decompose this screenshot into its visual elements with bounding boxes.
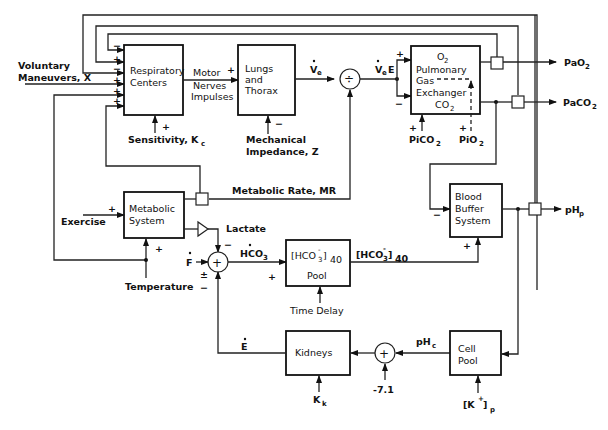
summing-junction-ph: + [351,343,395,363]
svg-text:40: 40 [330,254,342,265]
svg-text:p: p [579,210,584,218]
kk-input: K k [313,376,327,408]
lungs-thorax-block: Lungs and Thorax [238,45,295,115]
svg-text:Respiratory: Respiratory [130,65,185,76]
svg-text:e: e [382,69,387,77]
svg-text:+: + [459,122,467,133]
svg-text:Impulses: Impulses [191,91,234,102]
php-to-cellpool-wire [502,209,518,354]
svg-text:Metabolic Rate, MR: Metabolic Rate, MR [232,185,337,196]
svg-text:F: F [186,257,193,268]
svg-text:Gas: Gas [416,75,434,86]
svg-text:Cell: Cell [458,343,476,354]
svg-text:Temperature: Temperature [125,281,193,292]
svg-text:Exercise: Exercise [61,216,106,227]
svg-text:+: + [396,48,404,59]
svg-text:−: − [113,40,121,51]
svg-text:Metabolic: Metabolic [129,203,175,214]
vee-signal: V e E + − [360,48,411,109]
phc-signal: pH c [396,336,450,353]
svg-text:]: ] [388,249,392,260]
svg-text:E: E [388,64,395,75]
svg-text:PiO: PiO [459,134,477,145]
metabolic-rate-output [184,193,208,205]
svg-text:Centers: Centers [130,77,167,88]
svg-text:HCO: HCO [240,248,263,259]
svg-text:PaCO: PaCO [563,97,591,108]
svg-text:Time Delay: Time Delay [289,305,344,316]
svg-text:Lungs: Lungs [245,63,273,74]
svg-text:Thorax: Thorax [244,85,278,96]
f-dot-input: F ± [186,252,208,280]
svg-text:Nerves: Nerves [193,80,226,91]
svg-text:]: ] [483,399,487,410]
ve-signal: V e [295,60,334,79]
php-output: pH p [502,15,584,218]
metabolic-rate-feedback-wire [106,106,200,199]
svg-text:±: ± [200,269,208,280]
svg-text:−: − [200,282,208,293]
svg-text:Exchanger: Exchanger [416,87,466,98]
voluntary-maneuvers-input: Voluntary Maneuvers, X [18,60,124,84]
svg-text:+: + [113,95,121,106]
svg-text:2: 2 [479,140,484,148]
svg-text:−: − [113,63,121,74]
svg-text:CO: CO [435,99,449,110]
k-plasma-input: [K + ] p [463,376,495,414]
svg-text:-: - [383,245,386,253]
svg-text:Pool: Pool [458,355,478,366]
svg-text:Lactate: Lactate [226,223,266,234]
pico2-input: + PiCO 2 [409,115,441,148]
svg-text:−: − [395,98,403,109]
svg-text:pH: pH [416,336,431,347]
exercise-input: + Exercise [61,203,124,227]
svg-text:2: 2 [585,63,590,71]
svg-text:+: + [379,347,389,361]
svg-text:Mechanical: Mechanical [246,134,306,145]
paco2-output: PaCO 2 [480,96,597,111]
kidneys-block: Kidneys [286,331,350,375]
svg-text:PiCO: PiCO [409,134,434,145]
gas-exchanger-block: O 2 Pulmonary Gas Exchanger CO 2 [411,46,480,114]
svg-text:2: 2 [450,105,454,113]
respiratory-centers-block: Respiratory Centers [124,45,185,115]
hco3-40-signal: [HCO 3 - ] 40 [350,238,478,264]
svg-text:and: and [245,74,263,85]
svg-text:e: e [317,69,322,77]
svg-text:3: 3 [318,256,322,264]
svg-text:c: c [201,140,205,148]
svg-text:Buffer: Buffer [455,203,484,214]
sensitivity-input: + Sensitivity, K c [128,116,205,148]
svg-text:2: 2 [436,140,441,148]
svg-text:+: + [227,64,235,75]
divide-junction: ÷ [340,69,360,89]
svg-text:+: + [155,243,163,254]
svg-text:[HCO: [HCO [356,249,383,260]
respiratory-input-signs: − + − + + + [113,40,121,106]
temperature-input: + Temperature [125,239,193,292]
svg-text:c: c [432,342,436,350]
svg-text:Motor: Motor [193,67,221,78]
svg-text:+: + [463,240,471,251]
svg-text:K: K [313,394,321,405]
svg-text:[HCO: [HCO [291,250,316,261]
svg-text:÷: ÷ [344,72,354,86]
svg-text:Voluntary: Voluntary [18,60,71,71]
time-delay-input: Time Delay [289,287,344,316]
metabolic-system-block: Metabolic System [124,192,184,238]
svg-text:[K: [K [463,399,475,410]
svg-text:+: + [108,203,116,214]
svg-text:2: 2 [592,103,597,111]
svg-text:+: + [212,256,222,270]
svg-text:E: E [241,341,248,352]
svg-text:Pool: Pool [307,270,327,281]
svg-text:System: System [455,215,490,226]
hco3-rate-signal: HCO 3 + [228,244,286,282]
mechanical-impedance-input: − Mechanical Impedance, Z [246,116,319,157]
motor-nerves-signal: Motor + Nerves Impulses [183,64,238,102]
svg-text:-7.1: -7.1 [373,384,394,395]
svg-text:−: − [275,118,283,129]
summing-junction-hco3: + [208,252,228,272]
svg-text:Maneuvers, X: Maneuvers, X [18,72,92,83]
cell-pool-block: Cell Pool [450,331,501,375]
